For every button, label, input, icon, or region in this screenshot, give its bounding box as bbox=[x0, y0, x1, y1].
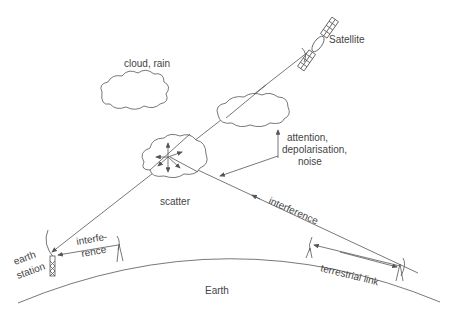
attention-label-1: attention, bbox=[287, 132, 328, 143]
terrestrial-tower-middle-icon bbox=[306, 237, 312, 258]
interference-long-label: interference bbox=[267, 195, 320, 227]
interference-arrow-back bbox=[252, 195, 260, 199]
scatter-cloud-shape bbox=[142, 134, 207, 177]
interference-short-label-2: rence bbox=[80, 244, 107, 259]
attention-label-2: depolarisation, bbox=[282, 144, 347, 155]
earth-label: Earth bbox=[205, 285, 229, 296]
terrestrial-tower-left-icon bbox=[117, 236, 123, 262]
satellite-label: Satellite bbox=[329, 34, 365, 45]
attention-arrow-left bbox=[220, 156, 278, 176]
earth-station-icon bbox=[46, 230, 55, 276]
terrestrial-tower-right-icon bbox=[396, 258, 405, 281]
scatter-label: scatter bbox=[160, 196, 191, 207]
attention-label-3: noise bbox=[298, 156, 322, 167]
cloud-rain-label: cloud, rain bbox=[124, 58, 170, 69]
cloud-rain-shape bbox=[101, 70, 169, 109]
attenuation-cloud-shape bbox=[217, 93, 289, 126]
terrestrial-link-label: terrestrial link bbox=[320, 262, 381, 287]
satellite-link-diagram: cloud, rain attention, depolarisation, n… bbox=[0, 0, 449, 310]
